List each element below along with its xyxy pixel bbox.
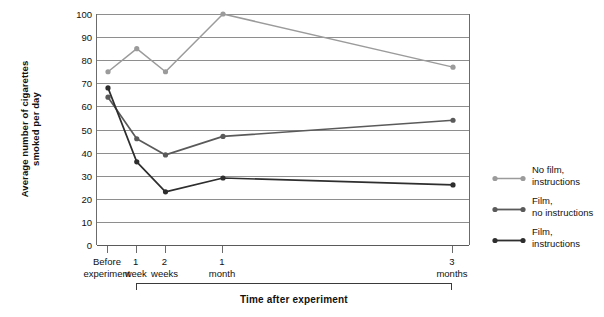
legend-swatch-icon	[492, 231, 526, 240]
x-tick-1	[136, 246, 137, 253]
x-tick-2	[165, 246, 166, 253]
gridline-0	[97, 245, 469, 246]
y-tick-label-90: 90	[52, 32, 92, 43]
y-tick-label-100: 100	[52, 9, 92, 20]
data-point	[450, 182, 455, 187]
legend-swatch-icon	[492, 169, 526, 178]
data-point	[163, 189, 168, 194]
data-point	[220, 11, 225, 16]
series-line-2	[108, 88, 453, 192]
y-tick-label-20: 20	[52, 193, 92, 204]
chart-legend: No film, instructionsFilm, no instructio…	[492, 166, 602, 259]
plot-area	[96, 14, 470, 245]
legend-label: No film, instructions	[532, 164, 580, 187]
x-tick-4	[452, 246, 453, 253]
x-axis-title: Time after experiment	[136, 294, 452, 305]
data-point	[105, 69, 110, 74]
y-tick-label-60: 60	[52, 101, 92, 112]
x-axis-bracket	[136, 283, 452, 290]
data-point	[450, 65, 455, 70]
legend-entry-2: Film, instructions	[492, 228, 602, 252]
y-tick-label-10: 10	[52, 216, 92, 227]
data-point	[163, 69, 168, 74]
y-tick-label-30: 30	[52, 170, 92, 181]
data-point	[134, 46, 139, 51]
series-line-1	[108, 97, 453, 155]
series-line-0	[108, 14, 453, 72]
x-tick-label-3: 1 month	[182, 256, 262, 279]
data-point	[163, 152, 168, 157]
y-tick-label-80: 80	[52, 55, 92, 66]
y-tick-label-0: 0	[52, 240, 92, 251]
data-point	[220, 134, 225, 139]
data-point	[105, 95, 110, 100]
x-tick-label-4: 3 months	[412, 256, 492, 279]
series-layer	[97, 14, 471, 245]
legend-entry-1: Film, no instructions	[492, 197, 602, 221]
data-point	[450, 118, 455, 123]
y-tick-label-50: 50	[52, 124, 92, 135]
legend-entry-0: No film, instructions	[492, 166, 602, 190]
legend-label: Film, instructions	[532, 226, 580, 249]
y-axis-title: Average number of cigarettes smoked per …	[19, 29, 41, 229]
y-tick-label-70: 70	[52, 78, 92, 89]
chart-figure: Average number of cigarettes smoked per …	[0, 0, 604, 317]
legend-swatch-icon	[492, 200, 526, 209]
data-point	[220, 175, 225, 180]
data-point	[105, 85, 110, 90]
x-tick-0	[107, 246, 108, 253]
data-point	[134, 136, 139, 141]
data-point	[134, 159, 139, 164]
x-tick-3	[222, 246, 223, 253]
y-tick-label-40: 40	[52, 147, 92, 158]
legend-label: Film, no instructions	[532, 195, 593, 218]
